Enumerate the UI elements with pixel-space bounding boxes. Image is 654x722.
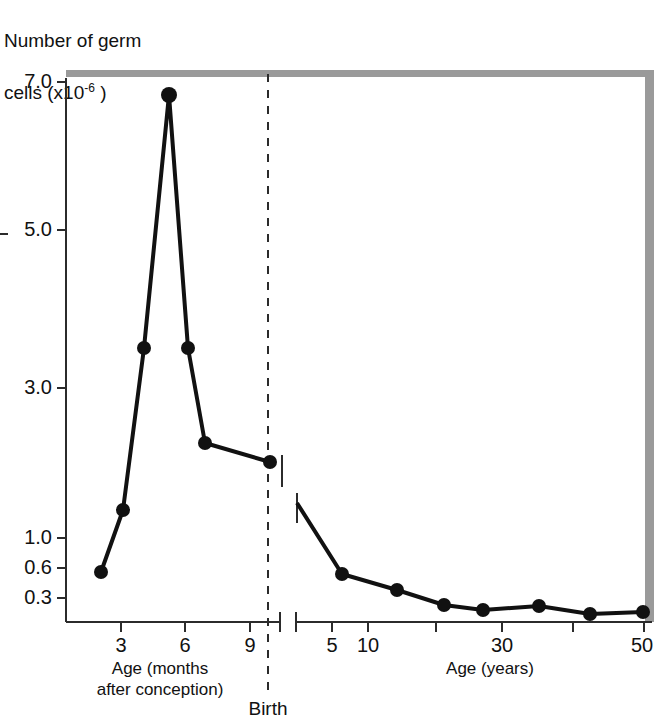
data-point: [116, 503, 130, 517]
frame-right-bar: [645, 70, 654, 622]
x-tick-label-years-5: 5: [322, 634, 342, 657]
x-tick-label-years-30: 30: [487, 634, 517, 657]
x-axis-caption-right: Age (years): [400, 658, 580, 679]
series-line-prenatal: [101, 95, 270, 572]
data-point: [636, 605, 650, 619]
y-tick-label-5: 5.0: [0, 218, 52, 241]
y-tick-label-03: 0.3: [0, 586, 52, 609]
data-point: [94, 565, 108, 579]
birth-label: Birth: [218, 698, 318, 719]
data-point: [532, 599, 546, 613]
x-tick-label-months-9: 9: [240, 634, 260, 657]
x-axis-caption-left: Age (months after conception): [60, 658, 260, 700]
y-tick-label-06: 0.6: [0, 556, 52, 579]
x-tick-label-years-10: 10: [353, 634, 383, 657]
x-tick-label-months-3: 3: [111, 634, 131, 657]
data-point: [198, 436, 212, 450]
x-tick-label-months-6: 6: [175, 634, 195, 657]
data-point: [583, 607, 597, 621]
y-tick-label-1: 1.0: [0, 526, 52, 549]
figure-canvas: Number of germ cells (x10-6 ): [0, 0, 654, 722]
plot-area: [0, 0, 654, 722]
data-point: [390, 583, 404, 597]
y-tick-label-3: 3.0: [0, 376, 52, 399]
y-tick-label-7: 7.0: [0, 70, 52, 93]
data-point: [161, 87, 177, 103]
data-point: [335, 567, 349, 581]
data-point: [263, 455, 277, 469]
series-line-postnatal: [297, 503, 643, 614]
data-point: [181, 341, 195, 355]
data-point: [476, 603, 490, 617]
x-tick-label-years-50: 50: [627, 634, 654, 657]
y-tick-marks: [57, 82, 66, 598]
data-point: [137, 341, 151, 355]
frame-top-bar: [66, 70, 654, 77]
data-point: [437, 598, 451, 612]
